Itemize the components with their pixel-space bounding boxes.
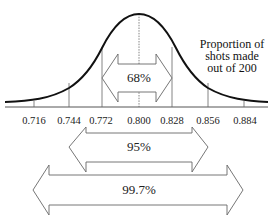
label-68: 68%: [127, 70, 151, 85]
svg-text:0.772: 0.772: [89, 115, 113, 126]
tick-labels: 0.716 0.744 0.772 0.800 0.828 0.856 0.88…: [22, 115, 257, 126]
svg-text:0.856: 0.856: [196, 115, 220, 126]
label-95: 95%: [127, 139, 151, 154]
svg-text:0.800: 0.800: [127, 115, 151, 126]
label-99-7: 99.7%: [122, 182, 156, 197]
svg-text:0.716: 0.716: [22, 115, 46, 126]
svg-text:0.828: 0.828: [160, 115, 184, 126]
annotation: Proportion of shots made out of 200: [200, 37, 264, 75]
svg-text:0.744: 0.744: [57, 115, 81, 126]
svg-text:0.884: 0.884: [233, 115, 257, 126]
svg-text:out of 200: out of 200: [207, 61, 256, 75]
normal-distribution-diagram: 68% 0.716 0.744 0.772 0.800 0.828 0.856 …: [0, 0, 271, 218]
